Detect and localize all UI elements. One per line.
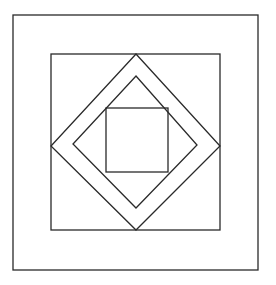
- outer-square: [13, 15, 258, 270]
- inner-square: [106, 108, 168, 172]
- nested-squares-diagram: [0, 0, 276, 285]
